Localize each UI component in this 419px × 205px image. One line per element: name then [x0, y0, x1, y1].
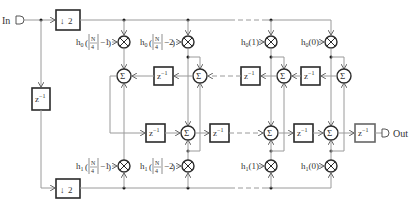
- multiplier-top-1: [118, 36, 130, 48]
- multiplier-bottom-2: [182, 160, 194, 172]
- sum-lower-3: Σ: [264, 126, 278, 140]
- sum-upper-3: Σ: [277, 69, 291, 83]
- svg-text:Σ: Σ: [184, 128, 189, 138]
- svg-text:(: (: [85, 38, 88, 48]
- multiplier-top-3: [265, 36, 277, 48]
- svg-text:2: 2: [68, 185, 73, 195]
- svg-text:Σ: Σ: [280, 71, 285, 81]
- multiplier-bottom-1: [118, 160, 130, 172]
- output-port: Out: [382, 128, 408, 139]
- sum-upper-4: Σ: [337, 69, 351, 83]
- svg-text:): ): [108, 162, 111, 172]
- svg-text:N: N: [91, 36, 96, 42]
- svg-text:h1(0): h1(0): [301, 161, 319, 172]
- multiplier-top-4: [325, 36, 337, 48]
- svg-text:Σ: Σ: [196, 71, 201, 81]
- delay-lower-1: z−1: [146, 124, 165, 142]
- svg-text:h1: h1: [76, 161, 84, 172]
- svg-text:Σ: Σ: [340, 71, 345, 81]
- sum-lower-4: Σ: [324, 126, 338, 140]
- input-label: In: [2, 15, 10, 26]
- input-port: In: [2, 15, 24, 26]
- svg-text:4: 4: [91, 44, 94, 50]
- delay-upper-1: z−1: [154, 67, 173, 85]
- multiplier-top-2: [182, 36, 194, 48]
- sum-upper-2: Σ: [193, 69, 207, 83]
- coef-bottom-2: h1 ( N 4 −2 ): [140, 158, 175, 174]
- delay-block-left: z−1: [32, 88, 50, 110]
- svg-text:N: N: [155, 160, 160, 166]
- svg-text:(: (: [85, 162, 88, 172]
- down-arrow-icon: ↓: [60, 185, 65, 195]
- svg-text:h0: h0: [140, 37, 148, 48]
- down-arrow-icon: ↓: [60, 16, 65, 26]
- svg-text:(: (: [149, 162, 152, 172]
- sum-lower-2: Σ: [181, 126, 195, 140]
- sum-upper-1: Σ: [117, 69, 131, 83]
- svg-text:h0: h0: [76, 37, 84, 48]
- top-taps: [123, 19, 332, 36]
- delay-upper-3: z−1: [301, 67, 320, 85]
- coef-top-3: h0(1): [241, 37, 259, 48]
- svg-text:4: 4: [91, 168, 94, 174]
- coef-bottom-3: h1(1): [241, 161, 259, 172]
- svg-text:h0(0): h0(0): [301, 37, 319, 48]
- polyphase-diagram: In ↓ 2 z−1 ↓ 2: [0, 0, 419, 205]
- multiplier-bottom-3: [265, 160, 277, 172]
- svg-text:2: 2: [68, 16, 73, 26]
- output-label: Out: [393, 128, 408, 139]
- svg-text:): ): [172, 162, 175, 172]
- coef-top-2: h0 ( N 4 −2 ): [140, 34, 175, 50]
- svg-text:(: (: [149, 38, 152, 48]
- svg-text:4: 4: [155, 168, 158, 174]
- svg-text:4: 4: [155, 44, 158, 50]
- coef-top-1: h0 ( N 4 −1 ): [76, 34, 111, 50]
- svg-text:Σ: Σ: [267, 128, 272, 138]
- delay-lower-3: z−1: [294, 124, 313, 142]
- delay-lower-2: z−1: [210, 124, 229, 142]
- coef-top-4: h0(0): [301, 37, 319, 48]
- bottom-taps: [123, 173, 332, 190]
- downsampler-top: ↓ 2: [56, 10, 80, 30]
- svg-text:Σ: Σ: [120, 71, 125, 81]
- svg-text:Σ: Σ: [327, 128, 332, 138]
- downsampler-bottom: ↓ 2: [56, 179, 80, 198]
- delay-output: z−1: [355, 124, 375, 142]
- coef-bottom-4: h1(0): [301, 161, 319, 172]
- delay-upper-2: z−1: [241, 67, 260, 85]
- svg-text:h1: h1: [140, 161, 148, 172]
- svg-text:): ): [108, 38, 111, 48]
- svg-text:h0(1): h0(1): [241, 37, 259, 48]
- svg-text:h1(1): h1(1): [241, 161, 259, 172]
- coef-bottom-1: h1 ( N 4 −1 ): [76, 158, 111, 174]
- svg-text:N: N: [91, 160, 96, 166]
- svg-text:): ): [172, 38, 175, 48]
- svg-text:N: N: [155, 36, 160, 42]
- multiplier-bottom-4: [325, 160, 337, 172]
